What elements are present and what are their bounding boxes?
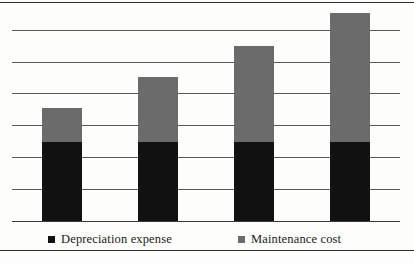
legend-square-icon [48, 236, 55, 243]
axis-baseline [12, 221, 400, 222]
bar-segment-depreciation-expense [42, 142, 82, 221]
legend-item-maintenance-cost: Maintenance cost [238, 229, 341, 249]
bar-segment-depreciation-expense [234, 142, 274, 221]
legend-item-label: Depreciation expense [61, 233, 172, 246]
legend-item-depreciation-expense: Depreciation expense [48, 229, 172, 249]
figure-bottom-rule [0, 250, 414, 251]
bar-segment-maintenance-cost [42, 108, 82, 142]
bar-column [330, 13, 370, 221]
bar-column [42, 108, 82, 221]
bar-segment-depreciation-expense [138, 142, 178, 221]
bar-column [138, 77, 178, 221]
chart-legend: Depreciation expense Maintenance cost [0, 229, 414, 249]
bar-segment-maintenance-cost [330, 13, 370, 142]
bar-column [234, 46, 274, 221]
plot-area [12, 6, 400, 222]
bar-segment-depreciation-expense [330, 142, 370, 221]
bar-segment-maintenance-cost [234, 46, 274, 142]
legend-item-label: Maintenance cost [251, 233, 341, 246]
figure-top-rule [0, 2, 414, 3]
bar-segment-maintenance-cost [138, 77, 178, 142]
stacked-bar-chart-figure: Depreciation expense Maintenance cost [0, 0, 414, 263]
legend-square-icon [238, 236, 245, 243]
